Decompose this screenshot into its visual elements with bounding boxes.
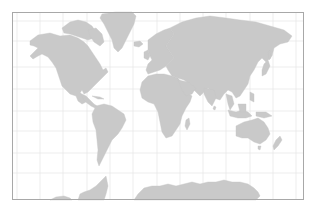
map-canvas bbox=[0, 0, 312, 212]
world-map bbox=[0, 0, 312, 212]
land-philippines bbox=[250, 92, 254, 102]
